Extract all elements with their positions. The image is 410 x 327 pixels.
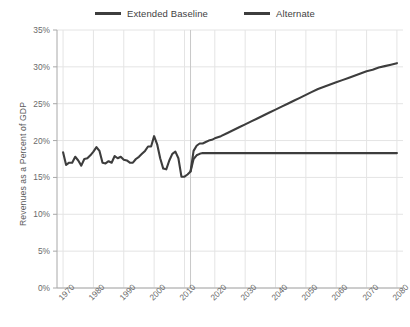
- x-tick-label: 2010: [178, 283, 197, 302]
- x-axis-ticks: 1970198019902000201020202030204020502060…: [0, 0, 410, 327]
- chart-container: Extended Baseline Alternate Revenues as …: [0, 0, 410, 327]
- x-tick-label: 2040: [270, 283, 289, 302]
- x-tick-label: 1970: [57, 283, 76, 302]
- x-tick-label: 2070: [361, 283, 380, 302]
- x-tick-label: 2000: [148, 283, 167, 302]
- x-tick-label: 2020: [209, 283, 228, 302]
- x-tick-label: 2030: [239, 283, 258, 302]
- x-tick-label: 1980: [87, 283, 106, 302]
- x-tick-label: 2060: [330, 283, 349, 302]
- x-tick-label: 2080: [391, 283, 410, 302]
- x-tick-label: 1990: [118, 283, 137, 302]
- x-tick-label: 2050: [300, 283, 319, 302]
